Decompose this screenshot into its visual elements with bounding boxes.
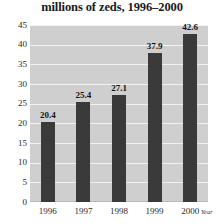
bar: [112, 95, 126, 202]
gridline: [30, 45, 208, 46]
y-axis-tick-label: 20: [1, 119, 27, 128]
x-axis-tick-label: 1996: [31, 206, 65, 216]
bar-value-label: 37.9: [140, 41, 170, 51]
chart-title: millions of zeds, 1996–2000: [0, 0, 224, 15]
y-axis-tick-label: 5: [1, 178, 27, 187]
bar-value-label: 25.4: [68, 90, 98, 100]
y-axis-tick-label: 0: [1, 198, 27, 207]
bar: [183, 34, 197, 202]
y-axis-tick-label: 15: [1, 139, 27, 148]
bar-value-label: 27.1: [104, 83, 134, 93]
x-axis-tick-label: 1997: [66, 206, 100, 216]
y-axis-tick-label: 35: [1, 60, 27, 69]
y-axis-tick-label: 40: [1, 40, 27, 49]
y-axis-tick-label: 45: [1, 21, 27, 30]
bar-value-label: 20.4: [33, 110, 63, 120]
y-axis-tick-label: 30: [1, 80, 27, 89]
x-axis-title: Year: [201, 208, 213, 215]
x-axis-tick-label: 1998: [102, 206, 136, 216]
bar: [41, 122, 55, 202]
gridline: [30, 64, 208, 65]
y-axis-tick-label: 10: [1, 158, 27, 167]
bar-value-label: 42.6: [175, 22, 205, 32]
x-axis: 19961997199819992000: [30, 206, 208, 220]
bar: [76, 102, 90, 202]
x-axis-tick-label: 1999: [138, 206, 172, 216]
y-axis: 454035302520151050: [0, 25, 27, 202]
bar: [148, 53, 162, 202]
bar-chart: millions of zeds, 1996–2000 454035302520…: [0, 0, 224, 224]
y-axis-tick-label: 25: [1, 99, 27, 108]
plot-area: 20.425.427.137.942.6: [30, 25, 208, 202]
